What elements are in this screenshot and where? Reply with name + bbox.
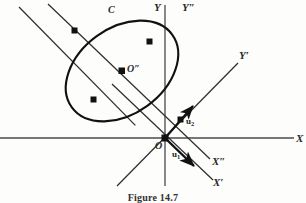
origin-double-prime-label: O″ — [127, 64, 140, 74]
figure-canvas — [0, 0, 306, 203]
origin-label: O — [155, 141, 162, 151]
u2-label: u2 — [186, 117, 194, 126]
x-prime-axis-label: X′ — [213, 177, 223, 188]
axis-group-prime — [112, 63, 238, 186]
x-double-prime-axis-label: X″ — [212, 156, 225, 167]
curve-c-label: C — [108, 5, 115, 15]
point-origin-double-prime — [119, 68, 126, 75]
x-double-prime-axis-line — [48, 4, 210, 159]
y-prime-axis-label: Y′ — [239, 50, 249, 61]
y-axis-label: Y — [154, 2, 161, 13]
point-origin — [162, 135, 169, 142]
point-upper-right — [147, 39, 153, 45]
point-lower-right — [178, 117, 184, 123]
point-lower-left — [91, 97, 97, 103]
x-axis-label: X — [296, 133, 303, 144]
point-upper-left — [72, 28, 78, 34]
marked-points-group — [72, 28, 184, 142]
figure-14-7: X Y Y″ Y′ X″ X′ O O″ C u1 u2 Figure 14.7 — [0, 0, 306, 203]
x-prime-axis-line — [112, 84, 213, 180]
y-double-prime-axis-label: Y″ — [182, 2, 195, 13]
axis-group-double-prime — [19, 4, 210, 159]
u1-label: u1 — [172, 150, 180, 159]
u2-subscript: 2 — [191, 120, 194, 127]
u1-subscript: 1 — [177, 153, 180, 160]
figure-caption: Figure 14.7 — [0, 192, 306, 203]
